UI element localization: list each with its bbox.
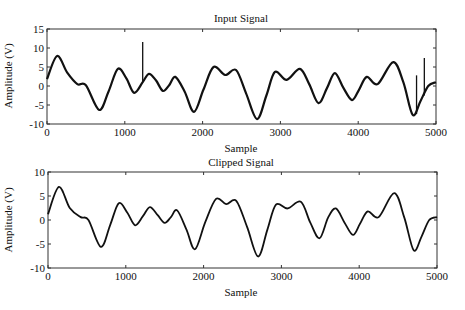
clipped-signal-plot: Clipped Signal -10-50510 010002000300040… (2, 156, 449, 298)
x-tick-label: 1000 (115, 270, 138, 282)
x-tick-label: 0 (44, 126, 50, 138)
y-tick-label: 10 (33, 42, 45, 54)
y-tick-label: -10 (30, 262, 45, 274)
input-signal-title: Input Signal (214, 12, 268, 24)
clipped-x-tick-labels: 010002000300040005000 (45, 270, 448, 282)
x-tick-label: 2000 (192, 126, 215, 138)
y-tick-label: 15 (33, 23, 45, 35)
y-tick-label: 5 (39, 61, 45, 73)
y-tick-label: -5 (36, 238, 46, 250)
input-axis-ticks (47, 29, 436, 124)
y-tick-label: 0 (39, 80, 45, 92)
clipped-y-tick-labels: -10-50510 (30, 166, 45, 274)
input-x-axis-label: Sample (225, 142, 258, 154)
x-tick-label: 0 (45, 270, 51, 282)
clipped-y-axis-label: Amplitude (V) (2, 187, 15, 252)
input-x-tick-labels: 010002000300040005000 (44, 126, 447, 138)
x-tick-label: 5000 (426, 270, 449, 282)
x-tick-label: 1000 (114, 126, 137, 138)
y-tick-label: 10 (34, 166, 46, 178)
y-tick-label: -5 (35, 99, 45, 111)
input-signal-trace (47, 56, 436, 119)
clipped-plot-frame (48, 172, 437, 268)
clipped-signal-trace (48, 187, 437, 257)
input-y-axis-label: Amplitude (V) (2, 43, 15, 108)
y-tick-label: 0 (40, 214, 46, 226)
clipped-x-axis-label: Sample (225, 286, 258, 298)
input-signal-plot: Input Signal -10-5051015 010002000300040… (2, 12, 448, 154)
input-plot-frame (47, 29, 436, 124)
y-tick-label: -10 (29, 118, 44, 130)
clipped-axis-ticks (48, 172, 437, 268)
x-tick-label: 5000 (425, 126, 448, 138)
y-tick-label: 5 (40, 190, 46, 202)
x-tick-label: 4000 (348, 270, 371, 282)
x-tick-label: 3000 (269, 126, 292, 138)
x-tick-label: 3000 (270, 270, 293, 282)
x-tick-label: 4000 (347, 126, 370, 138)
signal-figure: Input Signal -10-5051015 010002000300040… (0, 0, 465, 310)
input-y-tick-labels: -10-5051015 (29, 23, 44, 130)
clipped-signal-title: Clipped Signal (208, 156, 274, 168)
x-tick-label: 2000 (193, 270, 216, 282)
